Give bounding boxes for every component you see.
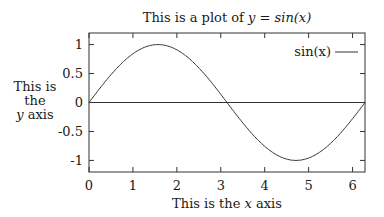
x-tick-label: 3 xyxy=(217,178,225,193)
svg-text:the: the xyxy=(24,93,46,108)
chart-title-math: y = sin(x) xyxy=(247,10,311,25)
legend: sin(x) xyxy=(294,44,358,59)
x-tick-label: 2 xyxy=(173,178,181,193)
y-tick-label: 1 xyxy=(75,37,83,52)
sine-chart: This is a plot of y = sin(x) This is the… xyxy=(0,0,384,217)
x-axis-label: This is the x axis xyxy=(172,196,282,211)
x-tick-label: 4 xyxy=(261,178,269,193)
legend-label: sin(x) xyxy=(294,44,331,59)
x-tick-label: 6 xyxy=(348,178,356,193)
y-axis-label: This is the y axis xyxy=(14,79,57,122)
chart-title: This is a plot of y = sin(x) xyxy=(143,10,311,25)
y-tick-label: 0 xyxy=(75,95,83,110)
svg-text:y axis: y axis xyxy=(15,107,53,122)
x-tick-label: 5 xyxy=(304,178,312,193)
svg-text:This is: This is xyxy=(14,79,57,94)
x-tick-label: 0 xyxy=(85,178,93,193)
x-tick-label: 1 xyxy=(129,178,137,193)
y-tick-label: -0.5 xyxy=(58,124,83,139)
y-tick-label: 0.5 xyxy=(62,66,83,81)
y-tick-label: -1 xyxy=(70,153,83,168)
